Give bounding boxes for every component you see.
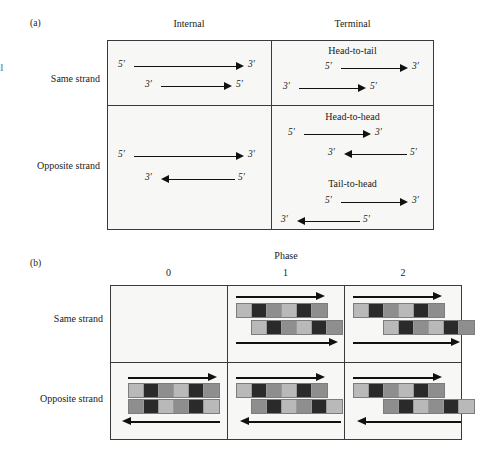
figure-root: al (a) Internal Terminal Same strand Opp… [0, 0, 479, 450]
panel-a-cell-same-terminal-arrow-2: 3′ 5′ [283, 82, 393, 94]
bottom-arrow-left [122, 417, 222, 426]
panel-a-cell-opposite-internal-arrow-1: 5′ 3′ [118, 150, 268, 162]
block [174, 400, 189, 413]
block [312, 321, 327, 334]
arrow-head-right-icon [208, 373, 217, 381]
block [297, 384, 312, 397]
top-arrow-right [128, 373, 220, 382]
panel-b-row-label-opposite-strand: Opposite strand [0, 393, 103, 404]
arrow-shaft [134, 156, 239, 157]
block [267, 321, 282, 334]
arrow-label-left: 5′ [288, 127, 295, 137]
block-row-top [128, 383, 220, 398]
block [282, 400, 297, 413]
arrow-head-right-icon [433, 373, 442, 381]
arrow-label-right: 5′ [236, 79, 243, 89]
block [144, 400, 159, 413]
arrow-label-right: 3′ [248, 59, 255, 69]
arrow-shaft [134, 66, 239, 67]
arrow-shaft [353, 342, 454, 344]
top-arrow-right [236, 292, 328, 301]
panel-a-cell-opposite-terminal-arrow-1: 5′ 3′ [288, 128, 398, 140]
arrow-head-right-icon [236, 62, 244, 70]
arrow-head-left-icon [297, 217, 305, 225]
panel-a-cell-same-internal-arrow-1: 5′ 3′ [118, 60, 268, 72]
arrow-label-right: 5′ [363, 214, 370, 224]
arrow-label-left: 3′ [145, 79, 152, 89]
arrow-head-right-icon [316, 373, 325, 381]
bottom-arrow-left [240, 417, 340, 426]
block [204, 384, 219, 397]
block [384, 400, 399, 413]
block [384, 321, 399, 334]
block [204, 400, 219, 413]
block [297, 321, 312, 334]
block-row-bottom [383, 320, 475, 335]
panel-a-letter: (a) [30, 18, 41, 28]
panel-b-row-divider [110, 362, 462, 363]
arrow-head-left-icon [344, 150, 352, 158]
block [459, 321, 474, 334]
top-arrow-right [353, 292, 445, 301]
block [354, 384, 369, 397]
block [297, 400, 312, 413]
arrow-shaft [128, 377, 211, 379]
clipped-left-label: al [0, 62, 3, 73]
block-row-top [353, 303, 445, 318]
block [399, 304, 414, 317]
arrow-label-left: 3′ [328, 147, 335, 157]
block [237, 384, 252, 397]
arrow-label-left: 3′ [281, 214, 288, 224]
block [429, 384, 444, 397]
block [189, 384, 204, 397]
panel-a-column-divider [271, 40, 272, 230]
block-row-bottom [383, 399, 475, 414]
block-row-top [236, 303, 328, 318]
block [414, 400, 429, 413]
block [252, 400, 267, 413]
arrow-shaft [352, 154, 407, 155]
panel-a-row-label-opposite-strand: Opposite strand [0, 160, 100, 171]
arrow-label-left: 5′ [118, 59, 125, 69]
arrow-label-left: 3′ [145, 172, 152, 182]
panel-a-column-header-terminal: Terminal [271, 18, 434, 29]
arrow-label-right: 5′ [410, 147, 417, 157]
arrow-label-right: 3′ [412, 195, 419, 205]
block [354, 304, 369, 317]
block [399, 384, 414, 397]
arrow-head-right-icon [236, 152, 244, 160]
arrow-shaft [365, 421, 461, 423]
arrow-label-left: 5′ [325, 61, 332, 71]
bottom-arrow-left [357, 417, 462, 426]
arrow-shaft [299, 88, 361, 89]
block [414, 384, 429, 397]
block [369, 384, 384, 397]
block [237, 304, 252, 317]
arrow-head-right-icon [433, 292, 442, 300]
block [327, 400, 342, 413]
block-row-bottom [128, 399, 220, 414]
arrow-shaft [236, 377, 319, 379]
panel-a-cell-opposite-internal-arrow-2: 3′ 5′ [145, 173, 265, 185]
arrow-head-right-icon [451, 338, 460, 346]
block [384, 304, 399, 317]
arrow-label-right: 3′ [248, 149, 255, 159]
panel-b-column-header-0: 0 [110, 267, 227, 278]
block [129, 384, 144, 397]
block [252, 321, 267, 334]
panel-b-super-header-phase: Phase [110, 250, 462, 261]
bottom-arrow-right [353, 338, 473, 347]
block [459, 400, 474, 413]
arrow-shaft [304, 134, 366, 135]
block [384, 384, 399, 397]
block [312, 400, 327, 413]
panel-a-cell-opposite-terminal-arrow-2: 3′ 5′ [328, 148, 438, 160]
arrow-shaft [130, 421, 220, 423]
block [414, 304, 429, 317]
block [159, 384, 174, 397]
arrow-head-right-icon [329, 338, 338, 346]
block [312, 384, 327, 397]
arrow-head-right-icon [224, 82, 232, 90]
block-row-top [353, 383, 445, 398]
panel-b-letter: (b) [30, 258, 41, 268]
